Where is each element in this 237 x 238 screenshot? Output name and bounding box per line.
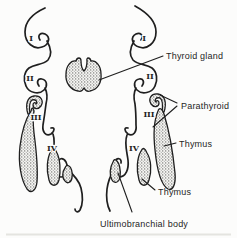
numeral-left-pouch-3: III [30, 112, 41, 122]
right-thymus-shape [154, 109, 175, 190]
ultimobranchial-body-shape [110, 160, 120, 183]
right-lower-thymus-shape [137, 149, 150, 186]
pharyngeal-pouch-diagram: Thyroid gland Parathyroid Thymus Thymus … [0, 0, 237, 238]
diagram-canvas: Thyroid gland Parathyroid Thymus Thymus … [0, 0, 237, 238]
left-ultimobranchial-body-shape [63, 165, 73, 182]
label-thyroid-gland: Thyroid gland [166, 51, 223, 61]
numeral-right-pouch-4: IV [129, 143, 140, 153]
numeral-right-pouch-3: III [143, 109, 154, 119]
thyroid-gland-shape [66, 58, 101, 91]
numeral-left-pouch-2: II [26, 73, 34, 83]
numeral-right-pouch-2: II [146, 71, 154, 81]
label-ultimobranchial-body: Ultimobranchial body [100, 219, 188, 229]
numeral-right-pouch-1: I [142, 33, 146, 43]
label-thymus-lower: Thymus [158, 187, 192, 197]
label-parathyroid: Parathyroid [181, 101, 229, 111]
numeral-left-pouch-1: I [29, 33, 33, 43]
scan-artifact-line [6, 234, 231, 236]
label-thymus-upper: Thymus [179, 139, 213, 149]
leader-line-ultimobranchial [118, 173, 132, 212]
numeral-left-pouch-4: IV [47, 143, 58, 153]
left-lower-thymus-shape [47, 149, 60, 186]
